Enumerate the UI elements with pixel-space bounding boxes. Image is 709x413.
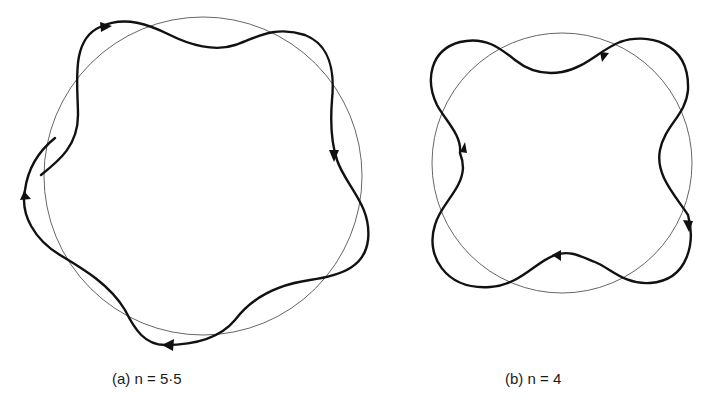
- panel-b-orbit-curve: [431, 39, 691, 288]
- panel-a-arrow-bottom-icon: [162, 339, 174, 351]
- panel-a-caption: (a) n = 5·5: [112, 370, 182, 387]
- panel-b-arrow-top-icon: [600, 52, 609, 62]
- panel-a-reference-circle: [44, 17, 362, 335]
- panel-b-caption: (b) n = 4: [505, 370, 561, 387]
- figure-canvas: [0, 0, 709, 413]
- panel-a-orbit-curve: [24, 22, 368, 345]
- panel-b-arrow-bottom-icon: [552, 250, 561, 261]
- panel-a-diagram: [20, 17, 368, 351]
- panel-b-diagram: [431, 33, 693, 293]
